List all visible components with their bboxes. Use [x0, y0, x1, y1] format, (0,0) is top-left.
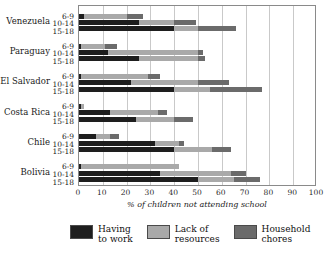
bar-segment — [231, 171, 245, 176]
bar-segment — [210, 87, 262, 92]
bar-segment — [96, 134, 110, 139]
bar-segment — [174, 20, 195, 25]
legend-item-household-chores: Household chores — [234, 224, 311, 254]
bar-segment — [81, 104, 83, 109]
x-tick-label: 20 — [121, 188, 131, 197]
category-axis-labels: Venezuela6-910-1415-18Paraguay6-910-1415… — [0, 5, 76, 186]
category-group: Bolivia6-910-1415-18 — [0, 163, 76, 182]
gridline — [127, 6, 128, 185]
age-group-label: 15-18 — [52, 58, 74, 66]
bar-segment — [79, 110, 110, 115]
bar-row — [79, 117, 193, 122]
bar-row — [79, 141, 184, 146]
bar-segment — [81, 74, 148, 79]
gridline — [222, 6, 223, 185]
bar-row — [79, 147, 231, 152]
gridline — [150, 6, 151, 185]
country-label: Venezuela — [6, 17, 50, 26]
bar-row — [79, 44, 117, 49]
category-group: Venezuela6-910-1415-18 — [0, 13, 76, 32]
legend-swatch-icon-household-chores — [234, 225, 257, 239]
bar-segment — [79, 80, 131, 85]
bar-row — [79, 164, 179, 169]
bar-segment — [79, 134, 96, 139]
country-label: Paraguay — [10, 47, 50, 56]
bar-segment — [108, 50, 198, 55]
bar-segment — [81, 44, 105, 49]
bar-segment — [127, 14, 144, 19]
bar-segment — [79, 147, 174, 152]
bar-segment — [160, 171, 231, 176]
gridline — [246, 6, 247, 185]
bar-segment — [174, 26, 198, 31]
bar-row — [79, 110, 167, 115]
bar-segment — [139, 56, 199, 61]
x-tick-label: 80 — [264, 188, 274, 197]
category-group: Paraguay6-910-1415-18 — [0, 43, 76, 62]
bar-segment — [79, 171, 160, 176]
bar-row — [79, 177, 260, 182]
bar-segment — [179, 141, 184, 146]
bar-segment — [79, 177, 198, 182]
legend-label-household-chores: Household chores — [262, 224, 311, 244]
x-tick-label: 30 — [145, 188, 155, 197]
bar-row — [79, 26, 236, 31]
age-group-labels: 6-910-1415-18 — [52, 13, 74, 36]
age-group-labels: 6-910-1415-18 — [52, 103, 74, 126]
age-group-labels: 6-910-1415-18 — [52, 133, 74, 156]
bar-segment — [110, 134, 120, 139]
category-group: Chile6-910-1415-18 — [0, 133, 76, 152]
bar-row — [79, 134, 119, 139]
bar-segment — [79, 141, 155, 146]
x-tick-label: 100 — [309, 188, 323, 197]
age-group-label: 15-18 — [52, 148, 74, 156]
bar-segment — [155, 141, 179, 146]
gridline — [103, 6, 104, 185]
x-tick-label: 70 — [240, 188, 250, 197]
gridline — [293, 6, 294, 185]
age-group-labels: 6-910-1415-18 — [52, 73, 74, 96]
bar-segment — [79, 26, 174, 31]
bar-segment — [198, 26, 236, 31]
bar-segment — [105, 44, 117, 49]
age-group-labels: 6-910-1415-18 — [52, 163, 74, 186]
x-tick-label: 10 — [97, 188, 107, 197]
x-axis-title: % of children not attending school — [78, 200, 316, 209]
bar-segment — [174, 87, 210, 92]
country-label: Chile — [28, 138, 50, 147]
bar-row — [79, 20, 196, 25]
bar-segment — [131, 80, 198, 85]
age-group-label: 15-18 — [52, 179, 74, 187]
bar-row — [79, 14, 143, 19]
country-label: Costa Rica — [4, 108, 50, 117]
chart-legend: Having to work Lack of resources Househo… — [70, 224, 320, 254]
bar-segment — [174, 117, 193, 122]
age-group-label: 15-18 — [52, 88, 74, 96]
legend-swatch-icon-having-to-work — [70, 225, 93, 239]
bar-segment — [79, 87, 174, 92]
legend-item-having-to-work: Having to work — [70, 224, 133, 254]
bar-segment — [212, 147, 231, 152]
country-label: Bolivia — [21, 168, 50, 177]
bar-segment — [79, 50, 108, 55]
gridline — [269, 6, 270, 185]
bar-segment — [81, 164, 179, 169]
bar-row — [79, 104, 84, 109]
x-tick-label: 50 — [192, 188, 202, 197]
bar-segment — [234, 177, 260, 182]
bar-segment — [198, 177, 234, 182]
age-group-labels: 6-910-1415-18 — [52, 43, 74, 66]
bar-row — [79, 80, 229, 85]
legend-swatch-icon-lack-of-resources — [147, 225, 170, 239]
bar-segment — [79, 56, 139, 61]
bar-segment — [139, 20, 175, 25]
category-group: Costa Rica6-910-1415-18 — [0, 103, 76, 122]
bar-segment — [158, 110, 168, 115]
x-tick-label: 90 — [287, 188, 297, 197]
x-tick-label: 60 — [216, 188, 226, 197]
country-label: El Salvador — [0, 77, 50, 86]
bar-segment — [79, 117, 136, 122]
bar-segment — [84, 14, 127, 19]
x-tick-label: 0 — [76, 188, 81, 197]
gridline — [198, 6, 199, 185]
